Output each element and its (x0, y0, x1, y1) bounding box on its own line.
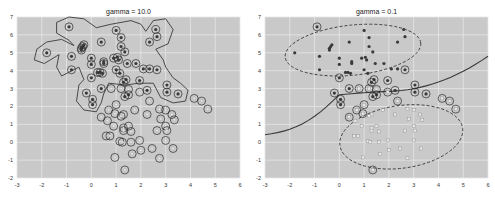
y-tick-label: 3 (10, 86, 13, 92)
y-tick-label: 6 (10, 32, 13, 38)
data-point-dark (403, 68, 406, 71)
data-point-light (386, 139, 389, 142)
data-point-dark (333, 91, 336, 94)
data-point-dark (148, 67, 151, 70)
y-tick-label: -2 (256, 175, 261, 181)
x-tick-label: 5 (462, 182, 465, 188)
data-point-dark (117, 58, 120, 61)
data-point-dark (318, 55, 321, 58)
data-point-light (200, 100, 203, 103)
data-point-dark (349, 72, 352, 75)
data-point-light (387, 149, 390, 152)
y-tick-label: 2 (258, 103, 261, 109)
y-tick-label: 6 (258, 32, 261, 38)
data-point-dark (91, 103, 94, 106)
data-point-light (138, 139, 141, 142)
data-point-dark (382, 62, 385, 65)
data-point-dark (100, 87, 103, 90)
data-point-light (406, 108, 409, 111)
data-point-light (420, 147, 423, 150)
data-point-light (121, 141, 124, 144)
data-point-dark (402, 28, 405, 31)
data-point-light (377, 130, 380, 133)
data-point-dark (370, 81, 373, 84)
data-point-light (120, 115, 123, 118)
data-point-light (369, 141, 372, 144)
data-point-dark (80, 48, 83, 51)
data-point-light (348, 116, 351, 119)
y-tick-label: -1 (256, 157, 261, 163)
data-point-dark (338, 63, 341, 66)
data-point-light (151, 147, 154, 150)
data-point-light (139, 149, 142, 152)
data-point-dark (67, 25, 70, 28)
data-point-light (379, 152, 382, 155)
x-tick-label: 0 (338, 182, 341, 188)
data-point-light (127, 125, 130, 128)
x-tick-label: -3 (15, 182, 20, 188)
data-point-light (131, 152, 134, 155)
data-point-light (413, 129, 416, 132)
data-point-dark (115, 68, 118, 71)
data-point-dark (367, 36, 370, 39)
data-point-dark (148, 40, 151, 43)
data-point-light (377, 141, 380, 144)
data-point-dark (142, 67, 145, 70)
data-point-light (412, 125, 415, 128)
data-point-light (133, 109, 136, 112)
y-tick-label: 5 (258, 50, 261, 56)
data-point-light (418, 113, 421, 116)
data-point-dark (119, 36, 122, 39)
data-point-light (159, 118, 162, 121)
y-tick-label: 1 (10, 121, 13, 127)
chart-canvas: -3-2-10123456-2-101234567gamma = 10.0-3-… (0, 0, 495, 201)
y-tick-label: 7 (258, 14, 261, 20)
data-point-light (406, 157, 409, 160)
data-point-dark (330, 43, 333, 46)
data-point-light (148, 100, 151, 103)
x-tick-label: -2 (287, 182, 292, 188)
data-point-light (123, 169, 126, 172)
data-point-dark (70, 68, 73, 71)
data-point-dark (413, 83, 416, 86)
data-point-light (356, 134, 359, 137)
data-point-dark (82, 43, 85, 46)
data-point-dark (45, 51, 48, 54)
data-point-dark (293, 51, 296, 54)
data-point-dark (403, 35, 406, 38)
data-point-dark (123, 50, 126, 53)
y-tick-label: 4 (258, 68, 261, 74)
data-point-dark (367, 45, 370, 48)
x-tick-label: 2 (139, 182, 142, 188)
y-tick-label: 4 (10, 68, 13, 74)
data-point-light (164, 139, 167, 142)
x-tick-label: 6 (238, 182, 241, 188)
data-point-dark (165, 91, 168, 94)
data-point-dark (70, 55, 73, 58)
data-point-light (130, 130, 133, 133)
data-point-light (360, 125, 363, 128)
data-point-dark (100, 40, 103, 43)
data-point-light (421, 118, 424, 121)
data-point-light (370, 129, 373, 132)
data-point-light (353, 134, 356, 137)
y-tick-label: -2 (8, 175, 13, 181)
chart-title: gamma = 10.0 (106, 8, 151, 16)
data-point-dark (393, 89, 396, 92)
data-point-dark (363, 68, 366, 71)
figure: -3-2-10123456-2-101234567gamma = 10.0-3-… (0, 0, 495, 201)
data-point-light (358, 87, 361, 90)
data-point-light (394, 113, 397, 116)
data-point-light (361, 156, 364, 159)
data-point-light (146, 113, 149, 116)
data-point-dark (338, 76, 341, 79)
y-tick-label: 2 (10, 103, 13, 109)
data-point-light (158, 108, 161, 111)
data-point-light (396, 100, 399, 103)
data-point-light (363, 103, 366, 106)
data-point-light (120, 87, 123, 90)
data-point-dark (365, 58, 368, 61)
x-tick-label: 5 (214, 182, 217, 188)
data-point-light (109, 135, 112, 138)
data-point-dark (318, 68, 321, 71)
